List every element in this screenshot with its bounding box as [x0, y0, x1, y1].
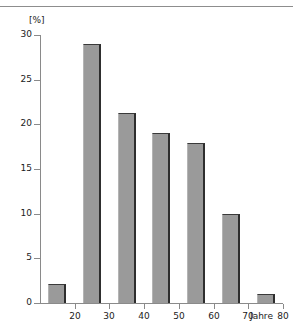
y-tick-label-text: 30 [6, 30, 32, 39]
y-tick-label-text: 5 [6, 253, 32, 262]
chart-figure: [%] 051015202530 20304050607080 Jahre [0, 0, 293, 332]
x-tick-mark [283, 304, 284, 309]
y-tick-label: 30 [4, 30, 32, 39]
y-tick-mark [34, 35, 40, 36]
y-axis-title: [%] [29, 15, 45, 25]
x-tick-mark [144, 304, 145, 309]
x-tick-mark [75, 304, 76, 309]
bar [118, 113, 136, 303]
x-tick-mark [248, 304, 249, 309]
y-tick-label: 5 [4, 253, 32, 262]
y-tick-label: 25 [4, 75, 32, 84]
y-tick-mark [34, 214, 40, 215]
bar [48, 284, 66, 303]
x-tick-label: 20 [60, 311, 90, 321]
y-tick-label: 10 [4, 209, 32, 218]
y-tick-label-text: 10 [6, 209, 32, 218]
x-tick-label: 40 [129, 311, 159, 321]
y-tick-mark [34, 124, 40, 125]
bar [222, 214, 240, 303]
bar [83, 44, 101, 303]
bar [257, 294, 275, 303]
y-tick-label: 20 [4, 119, 32, 128]
y-tick-mark [34, 303, 40, 304]
bar [187, 143, 205, 303]
x-tick-label: 50 [164, 311, 194, 321]
y-tick-label: 0 [4, 298, 32, 307]
y-tick-mark [34, 80, 40, 81]
x-tick-mark [214, 304, 215, 309]
x-tick-label: 30 [94, 311, 124, 321]
plot-area: [%] 051015202530 20304050607080 Jahre [0, 0, 293, 332]
x-axis-title: Jahre [250, 311, 273, 321]
y-tick-label-text: 15 [6, 164, 32, 173]
y-tick-mark [34, 258, 40, 259]
x-tick-label: 60 [199, 311, 229, 321]
x-axis-line [40, 303, 283, 304]
y-tick-label-text: 25 [6, 75, 32, 84]
x-tick-mark [179, 304, 180, 309]
y-tick-label-text: 20 [6, 119, 32, 128]
bar [152, 133, 170, 303]
x-tick-mark [109, 304, 110, 309]
y-tick-label-text: 0 [6, 298, 32, 307]
y-tick-label: 15 [4, 164, 32, 173]
y-tick-mark [34, 169, 40, 170]
y-axis-line [40, 35, 41, 304]
